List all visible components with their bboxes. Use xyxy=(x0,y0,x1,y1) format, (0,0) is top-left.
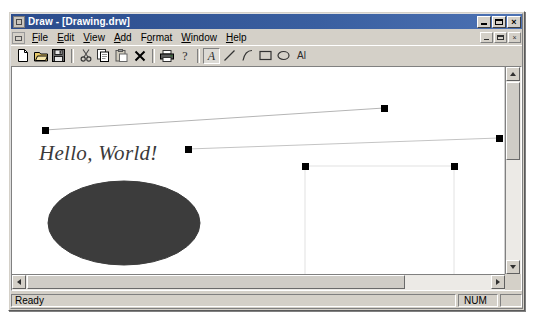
delete-icon[interactable] xyxy=(131,48,148,64)
scroll-down-button[interactable] xyxy=(506,260,520,274)
title-bar[interactable]: Draw - [Drawing.drw] × xyxy=(11,14,522,29)
document-icon[interactable] xyxy=(12,32,25,44)
toolbar: ? A Al xyxy=(11,45,522,65)
horizontal-scrollbar[interactable] xyxy=(12,274,505,290)
document-window: Hello, World! xyxy=(12,67,521,290)
cut-icon[interactable] xyxy=(77,48,94,64)
copy-icon[interactable] xyxy=(95,48,112,64)
status-bar: Ready NUM xyxy=(11,293,522,308)
drawing-canvas[interactable]: Hello, World! xyxy=(12,67,505,274)
svg-text:A: A xyxy=(207,49,216,62)
svg-text:?: ? xyxy=(182,49,187,62)
rectangle-shape-1[interactable] xyxy=(305,166,454,274)
open-icon[interactable] xyxy=(32,48,49,64)
menu-item-view[interactable]: View xyxy=(79,31,110,44)
new-icon[interactable] xyxy=(14,48,31,64)
application-window: Draw - [Drawing.drw] × File Edit View Ad… xyxy=(8,11,525,311)
help-icon[interactable]: ? xyxy=(176,48,193,64)
selection-handle-line1-end[interactable] xyxy=(381,105,388,112)
status-extra-pane xyxy=(500,294,522,307)
status-message: Ready xyxy=(11,294,456,307)
scroll-right-button[interactable] xyxy=(491,275,505,289)
status-num-indicator: NUM xyxy=(458,294,498,307)
toolbar-separator xyxy=(71,49,74,63)
toolbar-separator-3 xyxy=(197,49,200,63)
menu-bar: File Edit View Add Format Window Help × xyxy=(11,30,522,45)
minimize-button[interactable] xyxy=(477,16,491,28)
menu-item-file[interactable]: File xyxy=(28,31,53,44)
close-button[interactable]: × xyxy=(507,16,521,28)
menu-item-add[interactable]: Add xyxy=(110,31,137,44)
selection-handle-line2-start[interactable] xyxy=(185,146,192,153)
toolbar-separator-2 xyxy=(152,49,155,63)
chevron-down-icon xyxy=(510,265,516,269)
scroll-left-button[interactable] xyxy=(12,275,26,289)
line-shape-1[interactable] xyxy=(45,108,384,130)
vertical-scrollbar[interactable] xyxy=(505,67,521,274)
ai-tool-icon[interactable]: Al xyxy=(293,48,310,64)
size-grip[interactable] xyxy=(505,274,521,290)
mdi-restore-button[interactable] xyxy=(494,32,507,43)
menu-item-window[interactable]: Window xyxy=(177,31,222,44)
maximize-button[interactable] xyxy=(492,16,506,28)
menu-item-help[interactable]: Help xyxy=(222,31,252,44)
menu-item-edit[interactable]: Edit xyxy=(53,31,79,44)
text-tool-icon[interactable]: A xyxy=(203,48,220,64)
selection-handle-line2-end[interactable] xyxy=(496,135,503,142)
vertical-scrollbar-thumb[interactable] xyxy=(506,82,520,160)
ai-tool-label: Al xyxy=(297,50,306,61)
selection-handle-rect-tl[interactable] xyxy=(302,163,309,170)
line-shape-2[interactable] xyxy=(188,138,497,149)
mdi-close-button[interactable]: × xyxy=(508,32,521,43)
ellipse-shape-1[interactable] xyxy=(48,181,200,265)
horizontal-scrollbar-thumb[interactable] xyxy=(27,275,405,289)
window-title: Draw - [Drawing.drw] xyxy=(28,16,476,27)
print-icon[interactable] xyxy=(158,48,175,64)
chevron-up-icon xyxy=(510,72,516,76)
mdi-client-area: Hello, World! xyxy=(11,66,522,291)
chevron-left-icon xyxy=(17,279,21,285)
curve-tool-icon[interactable] xyxy=(239,48,256,64)
rectangle-tool-icon[interactable] xyxy=(257,48,274,64)
mdi-minimize-button[interactable] xyxy=(480,32,493,43)
paste-icon[interactable] xyxy=(113,48,130,64)
menu-item-format[interactable]: Format xyxy=(137,31,178,44)
selection-handle-line1-start[interactable] xyxy=(42,127,49,134)
scroll-up-button[interactable] xyxy=(506,67,520,81)
chevron-right-icon xyxy=(496,279,500,285)
line-tool-icon[interactable] xyxy=(221,48,238,64)
selection-handle-rect-tr[interactable] xyxy=(451,163,458,170)
mdi-window-buttons: × xyxy=(479,32,522,43)
shapes-layer xyxy=(12,67,497,274)
save-icon[interactable] xyxy=(50,48,67,64)
ellipse-tool-icon[interactable] xyxy=(275,48,292,64)
app-icon xyxy=(13,16,25,28)
